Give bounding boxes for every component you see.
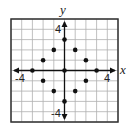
data-point (84, 79, 89, 84)
data-point (52, 89, 57, 94)
y-tick-label-neg4: -4 (51, 108, 61, 119)
data-point (41, 58, 46, 63)
data-point (62, 68, 67, 73)
y-tick-label-4: 4 (55, 24, 61, 35)
y-axis-arrow-up-icon (62, 21, 68, 27)
data-point (62, 37, 67, 42)
coordinate-grid (0, 0, 128, 125)
y-axis-label: y (60, 3, 66, 16)
data-point (62, 99, 67, 104)
x-tick-label-neg4: -4 (15, 73, 25, 84)
data-point (73, 89, 78, 94)
data-point (84, 58, 89, 63)
x-axis-label: x (120, 63, 126, 76)
data-point (52, 48, 57, 53)
x-axis-arrow-right-icon (110, 68, 116, 74)
x-tick-label-4: 4 (104, 73, 110, 84)
data-point (41, 79, 46, 84)
data-point (73, 48, 78, 53)
data-point (30, 68, 35, 73)
y-axis-arrow-down-icon (62, 114, 68, 120)
data-point (94, 68, 99, 73)
